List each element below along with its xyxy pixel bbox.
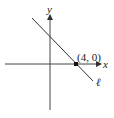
coordinate-diagram: y x (4, 0) ℓ <box>0 0 114 118</box>
line-label: ℓ <box>96 76 101 88</box>
point-label: (4, 0) <box>77 51 101 64</box>
y-axis-label: y <box>46 3 52 15</box>
line-l <box>32 18 93 81</box>
x-axis-label: x <box>102 58 108 70</box>
